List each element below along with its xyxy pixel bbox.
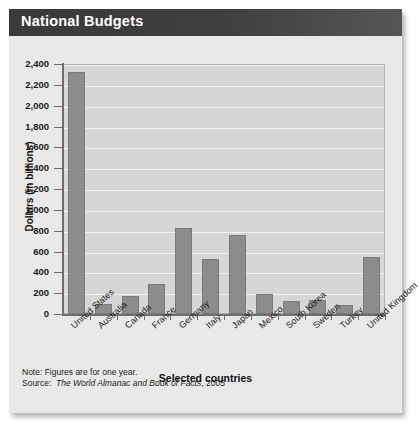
y-tick: [54, 210, 63, 211]
gridline: [64, 148, 384, 149]
y-tick-label: 800: [9, 225, 49, 236]
bar: [68, 72, 85, 314]
y-tick: [54, 106, 63, 107]
y-tick: [54, 147, 63, 148]
y-tick-label: 1,000: [9, 204, 49, 215]
gridline: [64, 65, 384, 66]
footnote-source-title: The World Almanac and Book of Facts: [56, 378, 201, 388]
gridline: [64, 128, 384, 129]
y-tick: [54, 64, 63, 65]
gridline: [64, 211, 384, 212]
gridline: [64, 253, 384, 254]
y-tick-label: 200: [9, 287, 49, 298]
chart-figure: National Budgets Dollars (in billions) S…: [9, 9, 402, 413]
bar: [363, 257, 380, 314]
gridline: [64, 169, 384, 170]
y-tick: [54, 252, 63, 253]
y-tick-label: 1,800: [9, 121, 49, 132]
y-tick-label: 400: [9, 266, 49, 277]
footnote-source-year: , 2005: [201, 378, 225, 388]
y-tick: [54, 189, 63, 190]
footnote-source-label: Source:: [22, 378, 51, 388]
gridline: [64, 232, 384, 233]
y-tick-label: 1,600: [9, 141, 49, 152]
gridline: [64, 273, 384, 274]
y-tick-label: 2,200: [9, 79, 49, 90]
y-tick-label: 600: [9, 246, 49, 257]
y-tick: [54, 168, 63, 169]
y-tick: [54, 272, 63, 273]
y-tick: [54, 231, 63, 232]
x-tick: [224, 316, 225, 320]
gridline: [64, 190, 384, 191]
y-tick-label: 2,400: [9, 58, 49, 69]
chart-footnote: Note: Figures are for one year. Source: …: [22, 367, 225, 388]
gridline: [64, 107, 384, 108]
footnote-note: Note: Figures are for one year.: [22, 367, 225, 378]
y-tick: [54, 127, 63, 128]
y-tick: [54, 85, 63, 86]
chart-canvas: Dollars (in billions) Selected countries…: [9, 36, 402, 413]
plot-area: [63, 64, 385, 314]
y-tick: [54, 314, 63, 315]
page-title: National Budgets: [21, 13, 143, 29]
y-tick-label: 0: [9, 308, 49, 319]
chart-title-bar: National Budgets: [9, 9, 402, 36]
y-tick-label: 1,200: [9, 183, 49, 194]
y-tick-label: 1,400: [9, 162, 49, 173]
y-tick-label: 2,000: [9, 100, 49, 111]
footnote-source: Source: The World Almanac and Book of Fa…: [22, 378, 225, 389]
bar: [229, 235, 246, 314]
bar: [175, 228, 192, 314]
y-tick: [54, 293, 63, 294]
gridline: [64, 86, 384, 87]
